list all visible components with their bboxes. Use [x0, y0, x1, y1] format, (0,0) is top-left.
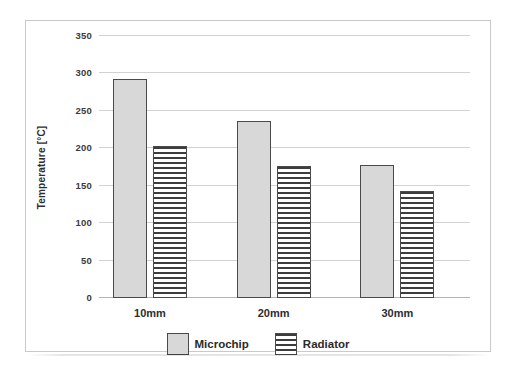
y-axis-tick-label: 100: [76, 217, 92, 228]
y-axis-title-text: Temperature [°C]: [37, 125, 48, 209]
bar-microchip-10mm: [113, 79, 147, 298]
bar-group-10mm: 10mm: [113, 36, 187, 298]
y-axis-tick-label: 50: [81, 254, 92, 265]
legend-swatch-microchip: [167, 333, 189, 355]
y-axis-tick-label: 0: [87, 292, 92, 303]
scan-shadow: [27, 354, 489, 356]
y-axis-tick-label: 150: [76, 179, 92, 190]
bar-microchip-20mm: [237, 121, 271, 298]
y-axis-tick-label: 300: [76, 67, 92, 78]
bar-radiator-20mm: [277, 166, 311, 298]
legend-label: Radiator: [303, 338, 350, 350]
x-axis-category-label: 30mm: [360, 307, 434, 319]
legend-label: Microchip: [195, 338, 249, 350]
x-axis-category-label: 20mm: [237, 307, 311, 319]
chart-legend: MicrochipRadiator: [26, 333, 490, 355]
y-axis-tick-label: 350: [76, 30, 92, 41]
bar-radiator-30mm: [400, 191, 434, 298]
chart-frame: Temperature [°C] 050100150200250300350 1…: [25, 20, 491, 352]
y-axis-title: Temperature [°C]: [34, 36, 50, 298]
y-axis-tick-label: 200: [76, 142, 92, 153]
bar-radiator-10mm: [153, 146, 187, 298]
y-axis-tick-label: 250: [76, 104, 92, 115]
plot-area: 050100150200250300350 10mm20mm30mm: [99, 36, 470, 298]
bar-group-20mm: 20mm: [237, 36, 311, 298]
bar-group-30mm: 30mm: [360, 36, 434, 298]
x-axis-category-label: 10mm: [113, 307, 187, 319]
legend-item-radiator[interactable]: Radiator: [275, 333, 350, 355]
bars-layer: 10mm20mm30mm: [99, 36, 470, 298]
legend-item-microchip[interactable]: Microchip: [167, 333, 249, 355]
legend-swatch-radiator: [275, 333, 297, 355]
bar-microchip-30mm: [360, 165, 394, 298]
